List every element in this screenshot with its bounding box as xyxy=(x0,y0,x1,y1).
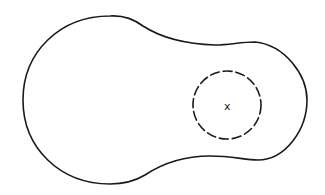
figure-canvas: x xyxy=(0,0,325,195)
peanut-outline xyxy=(23,16,307,184)
x-marker: x xyxy=(224,100,231,113)
